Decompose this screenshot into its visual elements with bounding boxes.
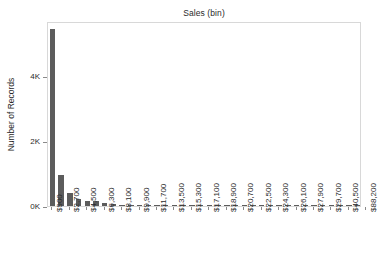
x-tick-label: $900 — [55, 194, 64, 212]
x-tick-mark — [86, 207, 87, 210]
y-tick-label: 4K — [0, 72, 47, 82]
x-tick-mark — [296, 207, 297, 210]
x-tick-label: $17,100 — [212, 183, 221, 212]
x-tick-label: $22,500 — [264, 183, 273, 212]
x-tick-mark — [313, 207, 314, 210]
x-tick-label: $24,300 — [281, 183, 290, 212]
x-tick-label: $13,500 — [177, 183, 186, 212]
x-tick-mark — [173, 207, 174, 210]
x-tick-label: $18,900 — [229, 183, 238, 212]
y-axis-title: Number of Records — [6, 22, 18, 207]
x-tick-label: $4,500 — [89, 188, 98, 212]
x-tick-label: $11,700 — [159, 184, 168, 212]
x-tick-label: $88,200 — [369, 183, 378, 212]
x-tick-mark — [104, 207, 105, 210]
x-tick-label: $40,500 — [351, 183, 360, 212]
x-tick-label: $9,900 — [142, 188, 151, 212]
y-tick-label: 2K — [0, 137, 47, 147]
x-tick-mark — [365, 207, 366, 210]
x-tick-label: $27,900 — [316, 183, 325, 212]
x-tick-mark — [191, 207, 192, 210]
plot-area — [47, 22, 361, 207]
x-tick-mark — [348, 207, 349, 210]
bar — [50, 29, 55, 206]
x-tick-mark — [278, 207, 279, 210]
x-tick-mark — [330, 207, 331, 210]
bars-layer — [48, 23, 360, 206]
x-tick-mark — [208, 207, 209, 210]
x-tick-mark — [139, 207, 140, 210]
x-tick-label: $6,300 — [107, 188, 116, 212]
y-tick-label: 0K — [0, 202, 47, 212]
x-tick-label: $2,700 — [72, 188, 81, 212]
x-tick-mark — [261, 207, 262, 210]
x-tick-label: $15,300 — [194, 183, 203, 212]
y-tick-mark — [43, 207, 47, 208]
x-tick-mark — [243, 207, 244, 210]
chart-title: Sales (bin) — [47, 8, 361, 18]
x-tick-label: $20,700 — [246, 183, 255, 212]
x-tick-mark — [69, 207, 70, 210]
x-tick-label: $26,100 — [299, 183, 308, 212]
x-tick-label: $29,700 — [334, 183, 343, 212]
x-tick-mark — [226, 207, 227, 210]
x-tick-mark — [121, 207, 122, 210]
x-tick-mark — [51, 207, 52, 210]
x-tick-label: $8,100 — [124, 188, 133, 212]
x-tick-mark — [156, 207, 157, 210]
